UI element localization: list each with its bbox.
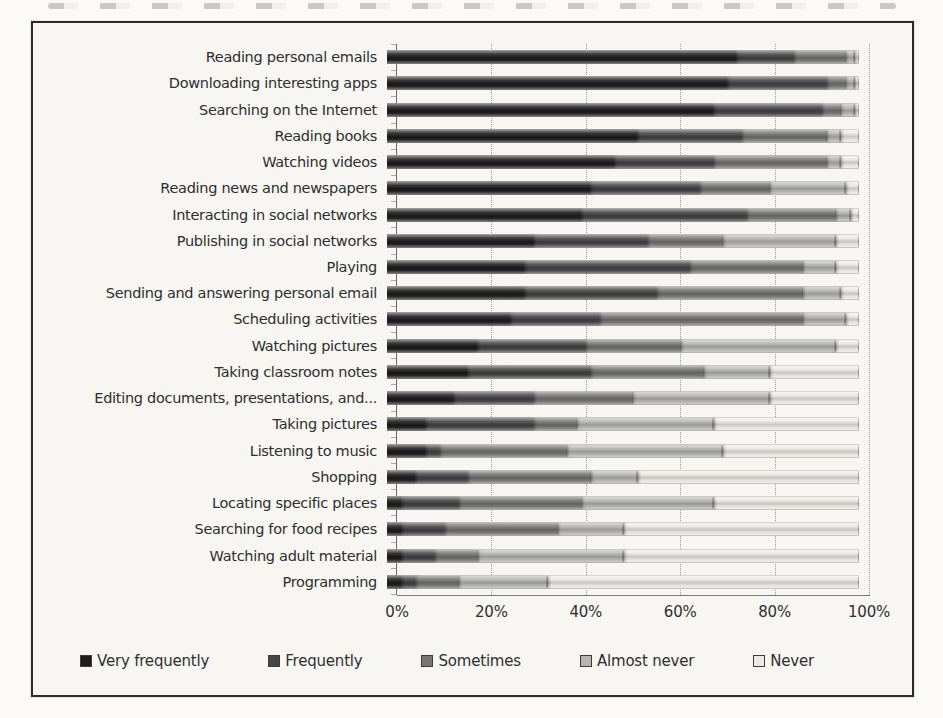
bar-segment-almost-never — [845, 50, 854, 64]
bar-row: Taking classroom notes — [39, 359, 869, 385]
bar-row: Programming — [39, 569, 869, 595]
bar-segment-frequently — [415, 470, 467, 484]
category-label: Searching on the Internet — [39, 102, 387, 118]
legend-item-very-frequently: Very frequently — [80, 652, 209, 670]
bar-segment-never — [835, 339, 859, 353]
bar-segment-sometimes — [826, 76, 845, 90]
bar-segment-sometimes — [533, 417, 575, 431]
bar-segment-very-frequently — [387, 391, 453, 405]
bar-track — [387, 76, 859, 90]
x-tick-label: 20% — [475, 603, 508, 621]
bar-segment-frequently — [510, 312, 600, 326]
legend-swatch-icon — [80, 655, 92, 667]
bar-segment-almost-never — [802, 312, 844, 326]
bar-segment-never — [850, 208, 859, 222]
bar-segment-sometimes — [585, 339, 679, 353]
category-label: Programming — [39, 574, 387, 590]
category-label: Watching pictures — [39, 338, 387, 354]
bar-segment-never — [835, 234, 859, 248]
bar-row: Watching adult material — [39, 543, 869, 569]
x-tick-label: 0% — [385, 603, 408, 621]
bar-segment-sometimes — [590, 365, 703, 379]
legend-item-sometimes: Sometimes — [421, 652, 520, 670]
legend-swatch-icon — [268, 655, 280, 667]
bar-segment-almost-never — [722, 234, 835, 248]
bar-row: Interacting in social networks — [39, 201, 869, 227]
bar-segment-sometimes — [713, 155, 826, 169]
bar-segment-frequently — [425, 417, 534, 431]
bar-row: Reading personal emails — [39, 44, 869, 70]
bar-segment-sometimes — [741, 129, 826, 143]
bar-segment-sometimes — [458, 496, 581, 510]
bar-row: Watching pictures — [39, 333, 869, 359]
bar-segment-never — [637, 470, 859, 484]
bar-segment-almost-never — [802, 286, 840, 300]
category-label: Reading personal emails — [39, 49, 387, 65]
scan-artifact-streak — [48, 3, 896, 9]
bar-segment-never — [769, 391, 859, 405]
bar-segment-sometimes — [415, 575, 457, 589]
category-label: Publishing in social networks — [39, 233, 387, 249]
bar-row: Downloading interesting apps — [39, 70, 869, 96]
category-label: Taking classroom notes — [39, 364, 387, 380]
category-label: Watching videos — [39, 154, 387, 170]
bar-segment-never — [722, 444, 859, 458]
bar-segment-very-frequently — [387, 103, 713, 117]
bar-segment-frequently — [736, 50, 793, 64]
bar-segment-almost-never — [826, 129, 840, 143]
bar-segment-very-frequently — [387, 575, 401, 589]
category-label: Locating specific places — [39, 495, 387, 511]
bar-segment-very-frequently — [387, 496, 401, 510]
bar-segment-frequently — [425, 444, 439, 458]
bar-track — [387, 391, 859, 405]
bar-segment-sometimes — [699, 181, 770, 195]
bar-segment-almost-never — [840, 103, 854, 117]
legend-label: Never — [770, 652, 814, 670]
bar-segment-frequently — [590, 181, 699, 195]
bar-track — [387, 417, 859, 431]
bar-track — [387, 129, 859, 143]
bar-track — [387, 470, 859, 484]
bar-segment-never — [840, 286, 859, 300]
bar-segment-almost-never — [769, 181, 845, 195]
bar-segment-very-frequently — [387, 339, 477, 353]
bar-segment-sometimes — [434, 549, 476, 563]
bar-segment-never — [854, 50, 859, 64]
bar-row: Watching videos — [39, 149, 869, 175]
bar-track — [387, 496, 859, 510]
bar-segment-almost-never — [826, 155, 840, 169]
gridline-100 — [869, 44, 870, 595]
legend-swatch-icon — [580, 655, 592, 667]
bar-segment-frequently — [477, 339, 586, 353]
category-label: Shopping — [39, 469, 387, 485]
chart-frame: Reading personal emailsDownloading inter… — [31, 21, 914, 697]
bar-segment-sometimes — [599, 312, 802, 326]
bar-row: Listening to music — [39, 438, 869, 464]
bar-segment-never — [845, 312, 859, 326]
bar-row: Locating specific places — [39, 490, 869, 516]
bar-segment-very-frequently — [387, 208, 581, 222]
bar-segment-frequently — [614, 155, 713, 169]
bar-segment-very-frequently — [387, 549, 401, 563]
bar-segment-never — [769, 365, 859, 379]
bar-row: Searching on the Internet — [39, 96, 869, 122]
bar-segment-almost-never — [458, 575, 548, 589]
bar-segment-never — [623, 522, 859, 536]
category-label: Editing documents, presentations, and... — [39, 390, 387, 406]
legend-label: Very frequently — [97, 652, 209, 670]
bar-segment-almost-never — [590, 470, 637, 484]
bar-track — [387, 103, 859, 117]
category-label: Listening to music — [39, 443, 387, 459]
bar-segment-very-frequently — [387, 260, 524, 274]
bar-segment-frequently — [524, 260, 689, 274]
bar-row: Taking pictures — [39, 411, 869, 437]
bar-row: Reading news and newspapers — [39, 175, 869, 201]
bar-segment-sometimes — [821, 103, 840, 117]
bar-segment-very-frequently — [387, 155, 614, 169]
legend-item-never: Never — [753, 652, 814, 670]
bar-segment-sometimes — [647, 234, 723, 248]
legend: Very frequentlyFrequentlySometimesAlmost… — [47, 652, 898, 670]
bar-segment-almost-never — [835, 208, 849, 222]
bar-segment-sometimes — [793, 50, 845, 64]
category-label: Sending and answering personal email — [39, 285, 387, 301]
